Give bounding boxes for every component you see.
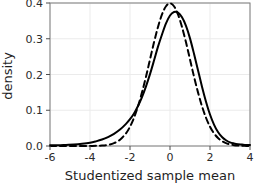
- x-tick-label: -6: [45, 151, 56, 164]
- x-tick-label: 4: [247, 151, 254, 164]
- y-tick-label: 0.2: [26, 69, 44, 82]
- x-axis-tick-labels: -6-4-2024: [45, 151, 254, 164]
- x-tick-label: -4: [85, 151, 96, 164]
- x-tick-label: 0: [167, 151, 174, 164]
- y-tick-label: 0.0: [26, 140, 44, 153]
- y-axis-title: density: [0, 52, 15, 100]
- y-axis-ticks: [46, 3, 50, 146]
- y-tick-label: 0.1: [26, 104, 44, 117]
- x-tick-label: -2: [125, 151, 136, 164]
- x-tick-label: 2: [207, 151, 214, 164]
- y-tick-label: 0.4: [26, 0, 44, 10]
- density-plot-figure: -6-4-2024 0.00.10.20.30.4 Studentized sa…: [0, 0, 261, 185]
- y-axis-tick-labels: 0.00.10.20.30.4: [26, 0, 44, 153]
- chart-canvas: -6-4-2024 0.00.10.20.30.4 Studentized sa…: [0, 0, 261, 185]
- x-axis-title: Studentized sample mean: [65, 168, 235, 183]
- y-tick-label: 0.3: [26, 33, 44, 46]
